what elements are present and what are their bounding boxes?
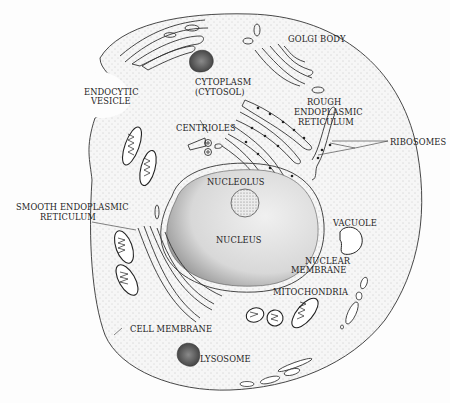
label-lysosome: LYSOSOME (200, 354, 251, 364)
label-rough: ROUGH (307, 97, 341, 107)
label-cytosol: (CYTOSOL) (195, 87, 245, 97)
label-cell-membrane: CELL MEMBRANE (130, 324, 212, 334)
label-vesicle: VESICLE (91, 96, 131, 106)
label-smooth-endoplasmic: SMOOTH ENDOPLASMIC (16, 202, 129, 212)
label-nucleus: NUCLEUS (216, 235, 262, 245)
label-mitochondria: MITOCHONDRIA (273, 287, 348, 297)
label-smooth-reticulum: RETICULUM (40, 212, 96, 222)
nucleolus (231, 189, 259, 217)
label-golgi-body: GOLGI BODY (288, 34, 346, 44)
label-rough-reticulum: RETICULUM (298, 117, 354, 127)
animal-cell-diagram: GOLGI BODY CYTOPLASM (CYTOSOL) ENDOCYTIC… (0, 0, 450, 403)
label-membrane: MEMBRANE (291, 265, 347, 275)
label-nucleolus: NUCLEOLUS (207, 177, 265, 187)
peroxisome (189, 50, 213, 72)
label-centrioles: CENTRIOLES (176, 123, 236, 133)
label-vacuole: VACUOLE (333, 218, 377, 228)
label-ribosomes: RIBOSOMES (390, 137, 446, 147)
label-rough-endoplasmic: ENDOPLASMIC (294, 107, 363, 117)
label-cytoplasm: CYTOPLASM (195, 77, 251, 87)
